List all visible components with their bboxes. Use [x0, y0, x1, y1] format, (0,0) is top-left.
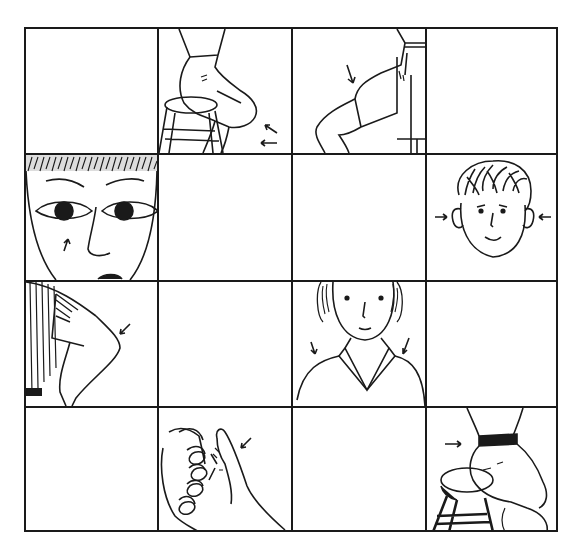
arrow-icon [539, 214, 551, 220]
cell-sitting-stool [159, 29, 291, 153]
cell-stool-waist [427, 408, 558, 532]
cell-face-eyes [26, 155, 157, 280]
arrow-icon [311, 342, 317, 354]
arrow-icon [265, 125, 277, 133]
thigh-illustration [293, 29, 425, 153]
cell-arm-elbow [26, 282, 157, 406]
face-illustration [26, 155, 157, 280]
cell-hand-thumb [159, 408, 291, 532]
cell-empty [293, 155, 425, 280]
boy-head-illustration [427, 155, 558, 280]
cell-shoulders-collar [293, 282, 425, 406]
cell-empty [26, 29, 157, 153]
arrow-icon [64, 239, 70, 251]
cell-empty [159, 155, 291, 280]
arrow-icon [241, 438, 251, 448]
arrow-icon [261, 140, 277, 146]
arm-illustration [26, 282, 157, 406]
cell-empty [427, 282, 558, 406]
cell-boy-ears [427, 155, 558, 280]
arrow-icon [445, 441, 461, 447]
sitting-figure-illustration [159, 29, 291, 153]
arrow-icon [403, 338, 409, 354]
cell-empty [26, 408, 157, 532]
arrow-icon [435, 214, 447, 220]
shoulders-illustration [293, 282, 425, 406]
sitting-waist-illustration [427, 408, 558, 532]
hand-illustration [159, 408, 291, 532]
cell-thigh-knee [293, 29, 425, 153]
cell-empty [293, 408, 425, 532]
arrow-icon [120, 324, 130, 334]
arrow-icon [347, 65, 355, 83]
cell-empty [159, 282, 291, 406]
illustration-grid [24, 27, 558, 532]
cell-empty [427, 29, 558, 153]
